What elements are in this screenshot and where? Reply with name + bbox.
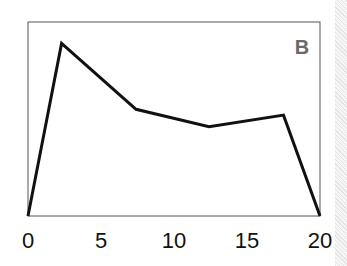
- x-tick-label: 15: [235, 228, 259, 253]
- x-tick-label: 0: [22, 228, 34, 253]
- data-line: [28, 43, 320, 216]
- x-axis-ticks: 05101520: [22, 228, 332, 253]
- x-tick-label: 20: [308, 228, 332, 253]
- x-tick-label: 5: [95, 228, 107, 253]
- x-tick-label: 10: [162, 228, 186, 253]
- panel-label: B: [295, 36, 309, 58]
- line-chart: B 05101520: [0, 0, 347, 266]
